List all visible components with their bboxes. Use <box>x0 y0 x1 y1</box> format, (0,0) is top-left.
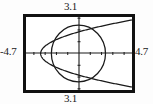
plot-canvas <box>0 0 153 104</box>
graph-figure: 3.1 3.1 -4.7 4.7 <box>0 0 153 104</box>
plot-contents <box>25 16 134 92</box>
